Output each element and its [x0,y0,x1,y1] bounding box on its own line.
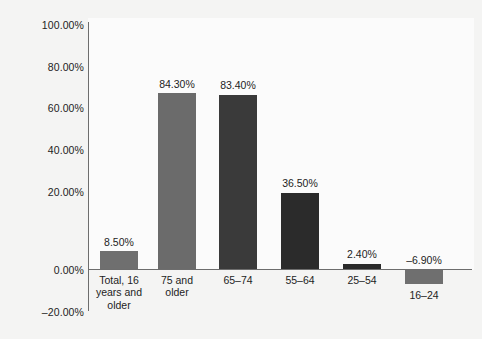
bar-value-label: 36.50% [257,177,343,189]
bar-value-label: 83.40% [195,79,281,91]
y-tick-label: 20.00% [0,186,84,198]
bar-65-74[interactable] [219,95,257,269]
bar-value-label: –6.90% [381,254,467,266]
category-label-line: 16–24 [381,289,467,301]
y-tick-label: 100.00% [0,19,84,31]
category-label-line: older [76,299,162,311]
bar-55-64[interactable] [281,193,319,269]
bar-total-16-years-and-older[interactable] [100,251,138,269]
y-tick-label: 0.00% [0,264,84,276]
bar-chart: 100.00% 80.00% 60.00% 40.00% 20.00% 0.00… [0,0,482,339]
y-tick-label: 80.00% [0,61,84,73]
category-label-line: older [134,286,220,298]
bar-series: 8.50% Total, 16 years and older 84.30% 7… [88,0,474,339]
category-label: 25–54 [319,274,405,286]
y-tick-label: 40.00% [0,144,84,156]
y-axis-tick-labels: 100.00% 80.00% 60.00% 40.00% 20.00% 0.00… [0,0,84,339]
bar-16-24[interactable] [405,270,443,284]
y-tick-label: –20.00% [0,306,84,318]
bar-75-and-older[interactable] [158,93,196,269]
y-tick-label: 60.00% [0,102,84,114]
category-label: 16–24 [381,289,467,301]
category-label-line: 25–54 [319,274,405,286]
bar-value-label: 8.50% [76,236,162,248]
bar-25-54[interactable] [343,264,381,269]
